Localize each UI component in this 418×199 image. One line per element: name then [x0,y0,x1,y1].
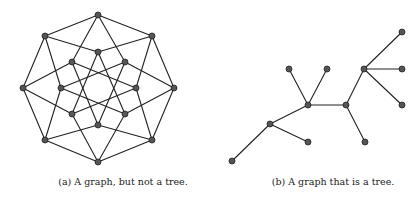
graph-b-edges [232,32,402,161]
graph-node [69,111,75,117]
graph-node [399,102,405,108]
graph-edge [23,88,45,140]
graph-node [149,137,155,143]
caption-b: (b) A graph that is a tree. [272,176,395,187]
graph-node [171,85,177,91]
caption-a: (a) A graph, but not a tree. [58,176,188,187]
graph-node [95,122,101,128]
graph-edge [364,69,402,105]
graph-node [58,85,64,91]
graph-edge [45,15,98,36]
graph-node [149,33,155,39]
graph-edge [98,15,152,36]
graph-edge [98,140,152,162]
graph-b-nodes [229,29,405,164]
graph-edge [98,36,152,52]
graph-node [399,29,405,35]
graph-edge [98,114,125,162]
graph-edge [45,140,98,162]
graph-edge [270,105,308,124]
graph-node [361,66,367,72]
graph-node [305,102,311,108]
graph-node [305,139,311,145]
graph-edge [346,105,365,142]
graph-edge [346,69,364,105]
graph-node [95,49,101,55]
graph-node [399,66,405,72]
graph-node [42,33,48,39]
graph-tree [229,29,405,164]
graph-edge [308,69,327,105]
graph-edge [125,62,174,88]
graph-edge [136,88,152,140]
graph-node [229,158,235,164]
graph-edge [72,15,98,62]
graph-node [343,102,349,108]
graph-node [69,59,75,65]
graph-a-nodes [20,12,177,165]
graph-not-tree [20,12,177,165]
graph-edge [98,15,125,62]
graph-node [324,66,330,72]
graph-edge [289,69,308,105]
graph-edge [72,114,98,162]
graph-edge [125,88,174,114]
figure-canvas [0,0,418,199]
graph-node [362,139,368,145]
graph-node [95,12,101,18]
graph-node [20,85,26,91]
graph-node [286,66,292,72]
graph-edge [152,88,174,140]
graph-node [42,137,48,143]
graph-edge [45,88,61,140]
graph-edge [23,62,72,88]
graph-edge [364,32,402,69]
graph-node [122,59,128,65]
graph-node [122,111,128,117]
graph-edge [23,88,72,114]
graph-node [267,121,273,127]
graph-edge [98,125,152,140]
graph-node [95,159,101,165]
graph-edge [45,36,98,52]
graph-edge [23,36,45,88]
graph-edge [152,36,174,88]
graph-edge [136,36,152,88]
graph-edge [270,124,308,142]
graph-edge [232,124,270,161]
graph-node [133,85,139,91]
graph-edge [45,125,98,140]
graph-edge [45,36,61,88]
